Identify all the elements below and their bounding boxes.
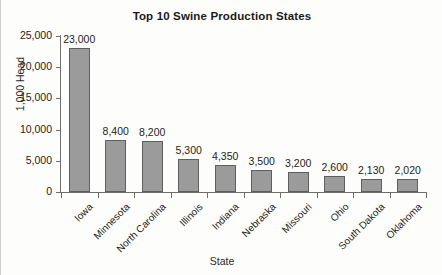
x-axis-tick-mark (134, 193, 135, 198)
x-axis-tick-mark (171, 193, 172, 198)
x-axis-title: State (1, 255, 442, 267)
y-axis-tick-label: 25,000 (20, 29, 52, 41)
x-axis-tick-mark (353, 193, 354, 198)
bar-nebraska (251, 170, 272, 192)
x-axis-tick-mark (98, 193, 99, 198)
y-axis-tick-label: 15,000 (20, 91, 52, 103)
bar-south-dakota (361, 179, 382, 192)
bar-minnesota (105, 140, 126, 192)
bar-value-label: 23,000 (55, 33, 103, 45)
x-axis-tick-mark (317, 193, 318, 198)
y-axis-tick-label: 10,000 (20, 123, 52, 135)
bar-illinois (178, 159, 199, 192)
x-axis-tick-mark (244, 193, 245, 198)
bar-value-label: 2,020 (384, 164, 432, 176)
bar-value-label: 8,200 (128, 126, 176, 138)
bar-oklahoma (397, 179, 418, 192)
x-axis-tick-mark (426, 193, 427, 198)
bar-missouri (288, 172, 309, 192)
x-axis-tick-mark (61, 193, 62, 198)
bar-iowa (69, 48, 90, 192)
bar-ohio (324, 176, 345, 192)
chart-figure: Top 10 Swine Production States 1,000 Hea… (0, 0, 442, 275)
bar-north-carolina (142, 141, 163, 192)
x-axis-tick-mark (280, 193, 281, 198)
x-axis-tick-mark (207, 193, 208, 198)
y-axis-tick-label: 20,000 (20, 60, 52, 72)
chart-title: Top 10 Swine Production States (1, 10, 442, 22)
bar-indiana (215, 165, 236, 192)
x-axis-tick-mark (390, 193, 391, 198)
y-axis-tick-label: 5,000 (26, 154, 52, 166)
y-axis-tick-label: 0 (46, 185, 52, 197)
y-axis-title: 1,000 Head (14, 34, 26, 134)
